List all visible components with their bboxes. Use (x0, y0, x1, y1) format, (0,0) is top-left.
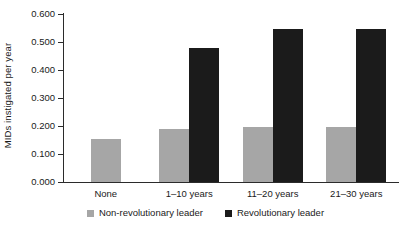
y-axis-tick-label: 0.300 (0, 93, 55, 103)
plot-area (64, 14, 398, 182)
y-axis-tick-label: 0.200 (0, 121, 55, 131)
y-axis-tick-label: 0.100 (0, 149, 55, 159)
bar (273, 29, 303, 182)
legend-swatch-icon (225, 210, 232, 217)
legend-swatch-icon (87, 210, 94, 217)
chart-legend: Non-revolutionary leader Revolutionary l… (0, 208, 411, 218)
legend-label: Revolutionary leader (237, 208, 324, 218)
bar-chart-figure: MIDs instigated per year 0.0000.1000.200… (0, 0, 411, 228)
bar (243, 127, 273, 182)
y-axis-tick-label: 0.500 (0, 37, 55, 47)
y-axis-tick-label: 0.000 (0, 177, 55, 187)
y-axis-tick (58, 182, 64, 183)
bar (356, 29, 386, 182)
legend-entry-non-revolutionary[interactable]: Non-revolutionary leader (87, 208, 203, 218)
x-axis-label: 21–30 years (306, 188, 406, 199)
x-axis-line (63, 182, 399, 183)
y-axis-tick-label: 0.400 (0, 65, 55, 75)
bar (326, 127, 356, 182)
legend-label: Non-revolutionary leader (99, 208, 203, 218)
bar (159, 129, 189, 182)
bar (91, 139, 121, 182)
bar (189, 48, 219, 182)
legend-entry-revolutionary[interactable]: Revolutionary leader (225, 208, 324, 218)
y-axis-tick-label: 0.600 (0, 9, 55, 19)
